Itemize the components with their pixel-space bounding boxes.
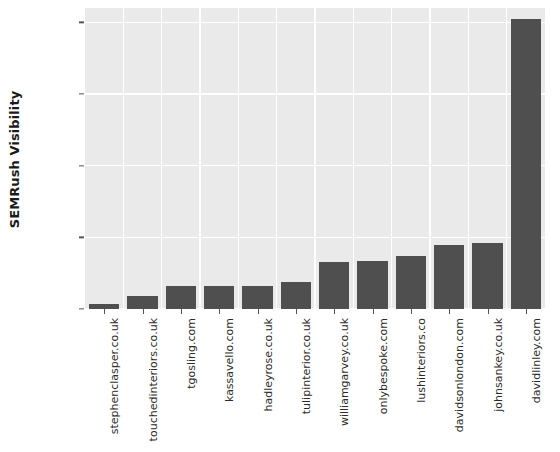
gridline-vertical bbox=[468, 8, 470, 309]
plot-area bbox=[85, 8, 545, 309]
bar bbox=[127, 296, 158, 309]
x-tick-label: williamgarvey.co.uk bbox=[338, 318, 351, 426]
bar bbox=[281, 282, 312, 309]
x-tick-mark bbox=[526, 309, 527, 314]
gridline-vertical bbox=[238, 8, 240, 309]
gridline-vertical bbox=[506, 8, 508, 309]
x-tick-label: hadleyrose.co.uk bbox=[262, 318, 275, 411]
gridline-vertical bbox=[199, 8, 201, 309]
x-tick-label: stephenclasper.co.uk bbox=[108, 318, 121, 434]
gridline-vertical bbox=[123, 8, 125, 309]
x-tick-label: davidlinley.com bbox=[530, 318, 543, 403]
x-tick-mark bbox=[258, 309, 259, 314]
gridline-vertical bbox=[353, 8, 355, 309]
gridline-vertical bbox=[429, 8, 431, 309]
gridline-vertical bbox=[276, 8, 278, 309]
y-axis-label-text: SEMRush Visibility bbox=[8, 90, 23, 228]
bar bbox=[242, 286, 273, 310]
x-tick-label: onlybespoke.com bbox=[377, 318, 390, 414]
bar bbox=[396, 256, 427, 309]
x-tick-mark bbox=[449, 309, 450, 314]
x-tick-mark bbox=[488, 309, 489, 314]
x-tick-label: lushinteriors.co bbox=[415, 318, 428, 403]
y-tick-mark bbox=[79, 237, 84, 238]
bar bbox=[472, 243, 503, 309]
x-tick-mark bbox=[219, 309, 220, 314]
bar bbox=[166, 286, 197, 310]
x-tick-mark bbox=[181, 309, 182, 314]
x-tick-label: kassavello.com bbox=[223, 318, 236, 402]
bar bbox=[319, 262, 350, 309]
x-tick-label: johnsankey.co.uk bbox=[492, 318, 505, 412]
x-tick-label: tgosling.com bbox=[185, 318, 198, 389]
x-tick-mark bbox=[334, 309, 335, 314]
gridline-vertical bbox=[391, 8, 393, 309]
y-tick-mark bbox=[79, 165, 84, 166]
x-tick-label: davidsonlondon.com bbox=[453, 318, 466, 432]
x-tick-mark bbox=[411, 309, 412, 314]
x-tick-label: touchedinteriors.co.uk bbox=[147, 318, 160, 441]
y-tick-mark bbox=[79, 93, 84, 94]
x-tick-mark bbox=[373, 309, 374, 314]
x-tick-mark bbox=[296, 309, 297, 314]
gridline-vertical bbox=[314, 8, 316, 309]
bar-chart-figure: SEMRush Visibility 025005000750010000ste… bbox=[0, 0, 560, 452]
x-tick-mark bbox=[143, 309, 144, 314]
bar bbox=[434, 245, 465, 309]
bar bbox=[357, 261, 388, 309]
bar bbox=[204, 286, 235, 310]
y-axis-label: SEMRush Visibility bbox=[2, 0, 28, 318]
y-tick-mark bbox=[79, 22, 84, 23]
x-tick-label: tulipinterior.co.uk bbox=[300, 318, 313, 414]
y-tick-mark bbox=[79, 308, 84, 309]
x-tick-mark bbox=[104, 309, 105, 314]
bar bbox=[511, 19, 542, 309]
gridline-vertical bbox=[161, 8, 163, 309]
